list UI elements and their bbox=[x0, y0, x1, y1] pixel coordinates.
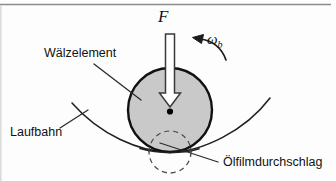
label-rolling-element: Wälzelement bbox=[44, 47, 116, 60]
label-oil-film-breakdown: Ölfilmdurchschlag bbox=[223, 156, 322, 169]
label-angular-velocity: ωb bbox=[207, 32, 223, 50]
figure-container: Wälzelement Laufbahn Ölfilmdurchschlag F… bbox=[0, 0, 336, 181]
center-dot bbox=[167, 108, 173, 114]
label-force-symbol: F bbox=[158, 8, 168, 25]
omega-symbol: ω bbox=[207, 31, 218, 47]
leader-line-raceway bbox=[60, 110, 88, 128]
bearing-contact-diagram bbox=[0, 0, 336, 181]
rotation-arrow-head bbox=[193, 35, 204, 44]
leader-line-rolling-element bbox=[94, 64, 141, 100]
label-raceway: Laufbahn bbox=[10, 126, 62, 139]
omega-subscript: b bbox=[218, 39, 223, 50]
